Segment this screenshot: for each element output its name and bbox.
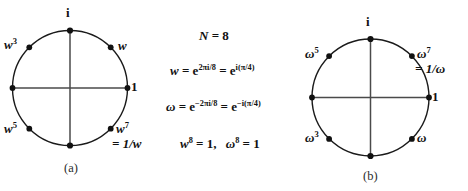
equation-omega8-base: ω xyxy=(226,136,235,151)
equation-omega-symbol: ω xyxy=(166,99,175,114)
panel-b-point-180deg xyxy=(309,95,315,101)
panel-a-point-45deg xyxy=(108,44,114,50)
panel-a-label-w: w xyxy=(118,39,127,53)
panel-b-group xyxy=(309,36,432,159)
panel-b-point-270deg xyxy=(367,153,373,159)
equation-eighth-powers: w8 = 1, ω8 = 1 xyxy=(180,137,260,151)
panel-a-label-w5: w5 xyxy=(4,122,17,136)
panel-a-label-w3-base: w xyxy=(4,37,13,52)
equation-w8-value: = 1, xyxy=(196,136,216,151)
panel-a-point-0deg xyxy=(125,85,131,91)
panel-b-label-i: i xyxy=(366,15,370,29)
panel-a-label-w7-reciprocal: = 1/w xyxy=(112,137,141,151)
panel-a-label-w7-exponent: 7 xyxy=(125,120,129,130)
panel-a-point-270deg xyxy=(67,142,73,148)
panel-b-label-one: 1 xyxy=(432,90,439,104)
panel-a-caption: (a) xyxy=(64,161,78,176)
panel-b-label-omega5-base: ω xyxy=(305,46,314,61)
unit-circle-roots-of-unity-figure: i 1 w w3 w5 w7 = 1/w (a) i 1 ω ω7 = 1/ω … xyxy=(0,0,468,191)
panel-a-group xyxy=(10,27,131,148)
equation-N-symbol: N xyxy=(199,28,208,43)
panel-b-point-45deg xyxy=(409,53,415,59)
panel-b-point-90deg xyxy=(367,36,373,42)
equation-w-definition: w = e2πi/8 = ei(π/4) xyxy=(170,64,254,78)
panel-b-label-omega7: ω7 xyxy=(417,47,431,61)
panel-a-point-180deg xyxy=(10,85,16,91)
equation-N-equals-sign: = xyxy=(212,28,219,43)
panel-b-point-225deg xyxy=(326,136,332,142)
panel-b-label-omega5: ω5 xyxy=(305,47,319,61)
panel-a-label-w7-base: w xyxy=(116,121,125,136)
panel-b-label-omega7-base: ω xyxy=(417,46,426,61)
equation-omega-equals-sign-2: = xyxy=(221,99,228,114)
panel-a-label-w3: w3 xyxy=(4,38,17,52)
equation-w-equals-sign-2: = xyxy=(219,63,226,78)
equation-omega-exponent-2: −i(π/4) xyxy=(237,99,261,108)
panel-b-label-omega7-exponent: 7 xyxy=(426,45,430,55)
equation-omega8-exponent: 8 xyxy=(235,136,239,145)
equation-w-exponent-1: 2πi/8 xyxy=(198,63,216,72)
equation-w8-exponent: 8 xyxy=(189,136,193,145)
equation-omega-exponent-1: −2πi/8 xyxy=(195,99,217,108)
panel-b-label-omega3-exponent: 3 xyxy=(314,129,318,139)
panel-a-label-w5-exponent: 5 xyxy=(13,120,17,130)
panel-b-label-omega: ω xyxy=(417,131,426,145)
panel-b-caption: (b) xyxy=(363,169,378,184)
panel-a-label-i: i xyxy=(66,6,70,20)
equation-N-value: 8 xyxy=(222,28,229,43)
equation-N-equals-8: N = 8 xyxy=(199,29,229,43)
panel-a-label-one: 1 xyxy=(131,80,138,94)
equation-omega-equals-sign-1: = xyxy=(179,99,186,114)
panel-b-point-315deg xyxy=(409,136,415,142)
equation-omega8-value: = 1 xyxy=(243,136,260,151)
panel-b-label-omega3-base: ω xyxy=(305,130,314,145)
panel-a-label-w3-exponent: 3 xyxy=(13,36,17,46)
panel-a-point-225deg xyxy=(26,126,32,132)
panel-a-point-315deg xyxy=(108,126,114,132)
panel-b-label-omega3: ω3 xyxy=(305,131,319,145)
equation-omega-definition: ω = e−2πi/8 = e−i(π/4) xyxy=(166,100,261,114)
equation-w8-base: w xyxy=(180,136,189,151)
panel-b-point-135deg xyxy=(326,53,332,59)
panel-a-point-135deg xyxy=(26,44,32,50)
panel-b-label-omega7-reciprocal: = 1/ω xyxy=(415,62,445,76)
panel-a-label-w7: w7 xyxy=(116,122,129,136)
panel-a-point-90deg xyxy=(67,27,73,33)
panel-b-label-omega5-exponent: 5 xyxy=(314,45,318,55)
equation-w-exponent-2: i(π/4) xyxy=(236,63,255,72)
equation-w-equals-sign-1: = xyxy=(182,63,189,78)
equation-w-symbol: w xyxy=(170,63,179,78)
panel-a-label-w5-base: w xyxy=(4,121,13,136)
